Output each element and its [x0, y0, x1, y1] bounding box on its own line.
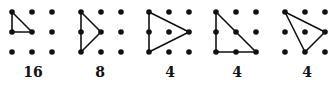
dot-grid-2	[78, 9, 124, 55]
grid-dot	[78, 9, 84, 15]
grid-dot	[146, 49, 152, 55]
dot-grid-4	[213, 9, 259, 55]
grid-dot	[146, 9, 152, 15]
grid-5-count-label: 4	[287, 63, 327, 81]
grid-dot	[282, 9, 288, 15]
grid-dot	[253, 9, 259, 15]
grid-dot	[98, 9, 104, 15]
grid-dot	[49, 49, 55, 55]
grid-dot	[213, 29, 219, 35]
grid-dot	[322, 49, 328, 55]
dot-grid-3	[146, 9, 192, 55]
grid-dot	[186, 49, 192, 55]
grid-dot	[166, 9, 172, 15]
grid-dot	[322, 9, 328, 15]
grid-dot	[166, 49, 172, 55]
dot-grid-5	[282, 9, 328, 55]
grid-dot	[186, 29, 192, 35]
dot-grid-1	[9, 9, 55, 55]
grid-dot	[282, 49, 288, 55]
grid-2-count-label: 8	[80, 63, 120, 81]
grid-dot	[9, 29, 15, 35]
triangle-shape	[12, 12, 32, 32]
grid-dot	[302, 9, 308, 15]
grid-3-count-label: 4	[150, 63, 190, 81]
grid-dot	[253, 29, 259, 35]
grid-dot	[213, 9, 219, 15]
grid-dot	[98, 49, 104, 55]
grid-dot	[233, 29, 239, 35]
grid-dot	[29, 9, 35, 15]
grid-dot	[253, 49, 259, 55]
triangle-shape	[81, 12, 101, 52]
grid-dot	[29, 49, 35, 55]
grid-dot	[9, 9, 15, 15]
grid-dot	[322, 29, 328, 35]
grid-4-count-label: 4	[217, 63, 257, 81]
grid-dot	[302, 29, 308, 35]
grid-dot	[78, 29, 84, 35]
grid-dot	[233, 49, 239, 55]
grid-dot	[233, 9, 239, 15]
grid-dot	[9, 49, 15, 55]
grid-dot	[302, 49, 308, 55]
grid-dot	[98, 29, 104, 35]
grid-dot	[186, 9, 192, 15]
grid-1-count-label: 16	[13, 63, 53, 81]
grid-dot	[146, 29, 152, 35]
grid-dot	[282, 29, 288, 35]
grid-dot	[78, 49, 84, 55]
grid-dot	[49, 29, 55, 35]
grid-dot	[29, 29, 35, 35]
grid-dot	[166, 29, 172, 35]
grid-dot	[213, 49, 219, 55]
grid-dot	[49, 9, 55, 15]
grid-dot	[118, 49, 124, 55]
grid-dot	[118, 29, 124, 35]
grid-dot	[118, 9, 124, 15]
